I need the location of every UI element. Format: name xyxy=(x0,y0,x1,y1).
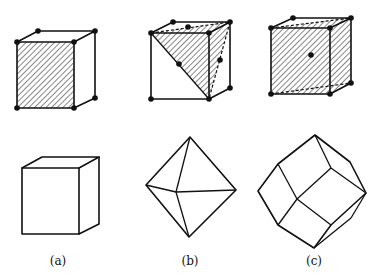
crystal-octahedron xyxy=(146,137,236,237)
crystal-rhombic-dodecahedron xyxy=(258,135,366,248)
hatched-face-a xyxy=(17,42,74,108)
crystal-figure: (a) (b) (c) xyxy=(0,0,380,278)
crystal-cube xyxy=(22,157,99,234)
panel-label-a: (a) xyxy=(50,254,67,268)
panel-label-b: (b) xyxy=(181,254,198,268)
lattice-cube-c xyxy=(268,15,354,97)
lattice-cube-b xyxy=(148,19,233,102)
panel-label-c: (c) xyxy=(306,254,322,268)
lattice-cube-a xyxy=(14,28,98,111)
